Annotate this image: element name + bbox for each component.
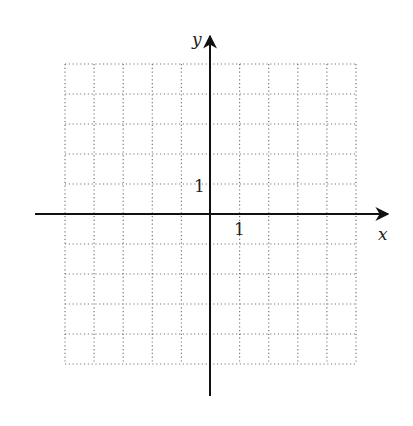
x-axis-label: x <box>378 224 388 244</box>
coordinate-plane: y x 1 1 <box>0 0 413 426</box>
y-tick-label-1: 1 <box>194 176 205 196</box>
x-tick-label-1: 1 <box>234 219 245 239</box>
y-axis-label: y <box>191 29 202 49</box>
